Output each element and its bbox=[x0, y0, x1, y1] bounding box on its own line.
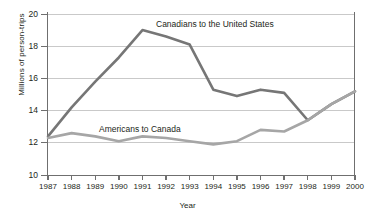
series-line-americans bbox=[48, 91, 355, 144]
series-layer bbox=[0, 0, 375, 219]
series-label-americans: Americans to Canada bbox=[99, 124, 181, 134]
line-chart: Millions of person-trips 20 18 16 14 12 … bbox=[0, 0, 375, 219]
x-axis-title: Year bbox=[0, 201, 375, 210]
series-label-canadians: Canadians to the United States bbox=[156, 19, 274, 29]
